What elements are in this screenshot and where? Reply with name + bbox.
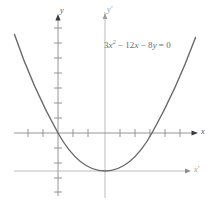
equation-term-1: − 12 [118, 40, 135, 50]
equation-equals-zero: = 0 [159, 40, 171, 50]
parabola-figure: y y′ x x′ 3x2 − 12x − 8y = 0 [0, 0, 211, 204]
equation-term-2: − 8 [140, 40, 152, 50]
equation-annotation: 3x2 − 12x − 8y = 0 [104, 41, 171, 50]
equation-var-y: y [153, 40, 157, 50]
equation-exponent: 2 [113, 39, 116, 45]
figure-canvas [0, 0, 211, 204]
x-prime-axis-arrowhead [185, 169, 191, 174]
x-prime-axis-label: x′ [194, 166, 199, 174]
x-axis-label: x [201, 128, 205, 136]
x-axis-arrowhead [192, 130, 199, 135]
equation-var-x: x [134, 40, 138, 50]
y-axis-label: y [60, 7, 64, 15]
y-prime-axis-label: y′ [107, 6, 112, 14]
